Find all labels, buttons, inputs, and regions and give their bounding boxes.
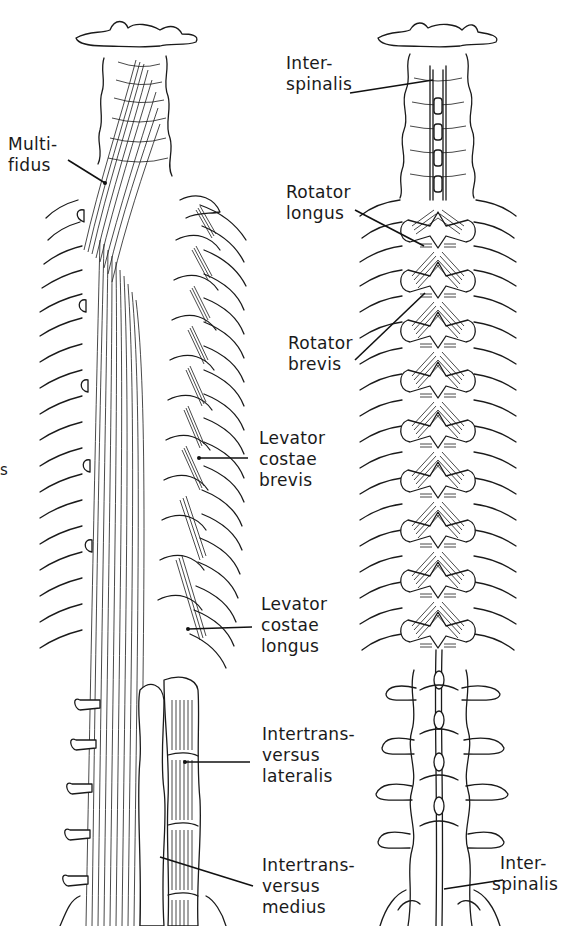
label-line: versus	[262, 745, 355, 766]
right-spine	[360, 23, 516, 926]
label-intertransversus-medius: Intertrans- versus medius	[262, 855, 355, 918]
left-spine	[40, 22, 246, 926]
label-line: Rotator	[286, 182, 351, 203]
label-line: versus	[262, 876, 355, 897]
label-interspinalis-bottom: Inter- spinalis	[500, 853, 558, 895]
label-line: Rotator	[288, 333, 353, 354]
label-levator-costae-brevis: Levator costae brevis	[259, 428, 325, 491]
label-intertransversus-lateralis: Intertrans- versus lateralis	[262, 724, 355, 787]
label-line: Multi-	[8, 134, 58, 155]
label-line: Levator	[259, 428, 325, 449]
edge-text-fragment: s	[0, 460, 8, 481]
label-line: costae	[259, 449, 325, 470]
label-rotator-brevis: Rotator brevis	[288, 333, 353, 375]
label-line: costae	[261, 615, 327, 636]
label-interspinalis-top: Inter- spinalis	[286, 53, 352, 95]
label-multifidus: Multi- fidus	[8, 134, 58, 176]
label-line: Intertrans-	[262, 855, 355, 876]
label-line: medius	[262, 897, 355, 918]
label-line: Inter-	[500, 853, 558, 874]
label-line: Inter-	[286, 53, 352, 74]
rotatores-muscles	[401, 210, 476, 648]
label-line: fidus	[8, 155, 58, 176]
label-levator-costae-longus: Levator costae longus	[261, 594, 327, 657]
label-rotator-longus: Rotator longus	[286, 182, 351, 224]
label-line: Intertrans-	[262, 724, 355, 745]
label-line: brevis	[288, 354, 353, 375]
interspinalis-cervical	[430, 66, 446, 200]
label-line: brevis	[259, 470, 325, 491]
label-line: longus	[261, 636, 327, 657]
label-line: Levator	[261, 594, 327, 615]
label-line: longus	[286, 203, 351, 224]
label-line: spinalis	[492, 874, 558, 895]
levator-costae-muscles	[176, 206, 216, 640]
label-line: spinalis	[286, 74, 352, 95]
interspinalis-lumbar	[435, 650, 442, 926]
label-line: lateralis	[262, 766, 355, 787]
